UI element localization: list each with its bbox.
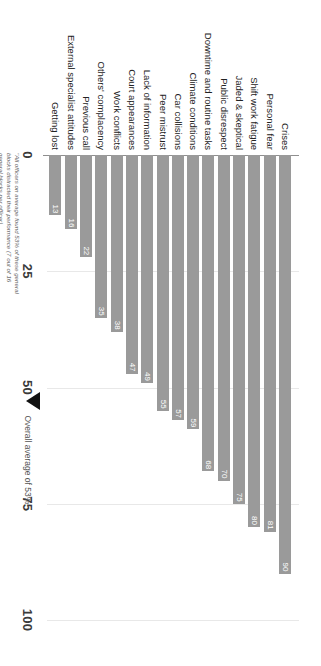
bar: 13 (50, 155, 62, 215)
bar-value-label: 68 (203, 460, 216, 469)
tick-label-0: 0 (20, 151, 35, 159)
bar: 81 (264, 155, 276, 532)
bar: 57 (172, 155, 184, 420)
bar: 16 (65, 155, 77, 229)
triangle-marker-icon (26, 392, 40, 410)
bar: 35 (95, 155, 107, 318)
bar-value-label: 81 (264, 521, 277, 530)
category-label: Car collisions (172, 94, 183, 151)
category-label: Peer mistrust (157, 94, 168, 150)
bar-value-label: 57 (172, 409, 185, 418)
bar: 49 (141, 155, 153, 383)
bar-value-label: 55 (157, 400, 170, 409)
chart-footnote: "All officers on average found 53% of th… (0, 153, 21, 303)
category-label: External specialist attitudes (65, 35, 76, 150)
bar-value-label: 49 (141, 372, 154, 381)
bar: 75 (233, 155, 245, 504)
bar-value-label: 90 (279, 563, 292, 572)
tick-label-25: 25 (20, 264, 35, 279)
category-label: Court appearances (127, 69, 138, 150)
tick-label-100: 100 (20, 609, 35, 632)
category-label: Lack of information (142, 70, 153, 150)
bar-value-label: 35 (95, 307, 108, 316)
category-label: Personal fear (264, 93, 275, 150)
bar: 22 (80, 155, 92, 257)
bar-value-label: 47 (126, 363, 139, 372)
category-label: Others' complacency (96, 62, 107, 150)
bar: 68 (203, 155, 215, 471)
category-label: Getting lost (50, 102, 61, 150)
gridline-100 (47, 620, 299, 621)
gridline-75 (47, 504, 299, 505)
bar-value-label: 59 (187, 418, 200, 427)
bar-value-label: 13 (50, 205, 63, 214)
category-label: Work conflicts (111, 91, 122, 150)
bar-value-label: 80 (248, 516, 261, 525)
chart-canvas: 90818075706859575549473835221613 CrisesP… (0, 0, 321, 666)
overall-average-label: Overall average of 53% (23, 415, 33, 504)
category-label: Climate conditions (188, 72, 199, 150)
bar: 90 (279, 155, 291, 574)
bar: 38 (111, 155, 123, 332)
bar-value-label: 75 (233, 493, 246, 502)
bar: 80 (248, 155, 260, 527)
category-label: Previous call (81, 96, 92, 150)
bar-value-label: 22 (80, 246, 93, 255)
category-label: Jaded & skeptical (234, 76, 245, 150)
bar-value-label: 16 (65, 218, 78, 227)
bar: 47 (126, 155, 138, 374)
bar: 55 (157, 155, 169, 411)
category-label: Crises (280, 123, 291, 150)
category-label: Public disrespect (218, 78, 229, 150)
category-label: Shift work fatigue (249, 77, 260, 150)
bar-value-label: 38 (111, 321, 124, 330)
bar: 59 (187, 155, 199, 429)
bar: 70 (218, 155, 230, 481)
plot-area: 90818075706859575549473835221613 CrisesP… (0, 0, 321, 666)
category-label: Downtime and routine tasks (203, 33, 214, 150)
bar-value-label: 70 (218, 470, 231, 479)
